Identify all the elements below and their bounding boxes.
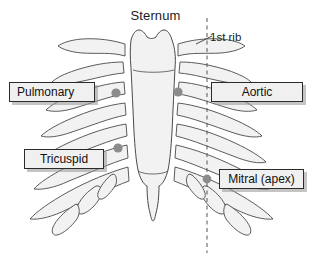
callout-pulmonary-label: Pulmonary [17, 86, 74, 98]
first-rib-annotation: 1st rib [210, 31, 241, 43]
callout-aortic: Aortic [211, 82, 303, 102]
pulmonary-point-icon [111, 88, 120, 97]
anatomical-figure: Sternum 1st rib Pulmonary Aortic Tricusp… [0, 0, 311, 257]
figure-title: Sternum [0, 8, 311, 23]
tricuspid-point-icon [113, 143, 122, 152]
sternum-body [130, 30, 175, 221]
ribs-left-group [30, 39, 129, 235]
aortic-point-icon [173, 87, 182, 96]
rib-left-1 [58, 39, 125, 56]
callout-mitral: Mitral (apex) [219, 169, 304, 189]
callout-pulmonary: Pulmonary [9, 82, 95, 102]
ribs-right-group [174, 39, 273, 235]
mitral-point-icon [203, 175, 212, 184]
rib-right-2 [179, 62, 251, 84]
callout-tricuspid: Tricuspid [24, 149, 104, 169]
ribcage-illustration [0, 0, 311, 257]
callout-aortic-label: Aortic [242, 86, 273, 98]
rib-left-2 [52, 62, 124, 84]
callout-mitral-label: Mitral (apex) [228, 173, 295, 185]
callout-tricuspid-label: Tricuspid [40, 153, 88, 165]
